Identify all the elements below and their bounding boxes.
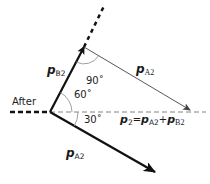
momentum-vector-diagram [0, 0, 210, 184]
momentum-sum-equation: p2=pA2+pB2 [120, 114, 184, 127]
pB2-arrow [50, 47, 84, 112]
pB2-label: pB2 [47, 64, 66, 78]
angle-30-label: 30˚ [84, 115, 102, 125]
after-label: After [12, 97, 36, 107]
angle-60-label: 60˚ [74, 90, 92, 100]
angle-90-label: 90˚ [86, 76, 104, 86]
pB2-extension-dashed [84, 6, 104, 47]
sixty-degree-arc [60, 93, 72, 113]
pA2-translated-label: pA2 [136, 63, 154, 77]
pB2-subscript: B2 [56, 69, 66, 78]
thirty-degree-arc [74, 112, 78, 126]
pA2-translated-subscript: A2 [145, 68, 155, 77]
pA2-label: pA2 [66, 147, 85, 161]
pA2-subscript: A2 [75, 152, 85, 161]
